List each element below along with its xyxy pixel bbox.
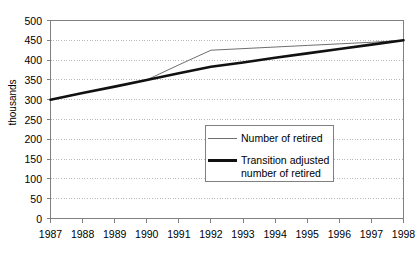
legend-line-thin-icon [206,132,239,144]
axis-ticks [47,21,404,223]
data-series [51,40,404,99]
legend-item-transition-adjusted: Transition adjusted number of retired [206,154,334,179]
legend-label: Transition adjusted number of retired [239,154,329,179]
legend-label: Number of retired [239,132,323,145]
line-chart: thousands 050100150200250300350400450500… [0,0,420,255]
legend: Number of retired Transition adjusted nu… [205,125,334,182]
legend-line-thick-icon [206,154,239,166]
legend-item-number-of-retired: Number of retired [206,132,334,145]
